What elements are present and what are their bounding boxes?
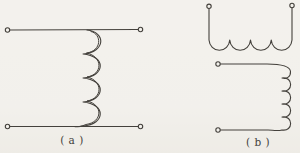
figure-a-terminal-top-right <box>138 27 142 31</box>
figure-a-top-wire <box>10 30 138 31</box>
figure-a-terminal-bottom-right <box>138 124 142 128</box>
figure-b-bottom-coil-terminal-top <box>216 62 220 66</box>
figure-b-bottom-coil-terminal-bottom <box>216 128 220 132</box>
figure-a-label: ( a ) <box>60 134 84 146</box>
circuit-diagram: ( a ) ( b ) <box>0 0 300 153</box>
figure-a-terminal-bottom-left <box>5 124 9 128</box>
figure-b-label: ( b ) <box>246 136 270 148</box>
figure-b-top-coil-terminal-left <box>207 4 211 8</box>
scanned-diagram-page: ( a ) ( b ) <box>0 0 300 153</box>
figure-b-top-coil-terminal-right <box>290 3 294 7</box>
figure-a-terminal-top-left <box>5 28 9 32</box>
